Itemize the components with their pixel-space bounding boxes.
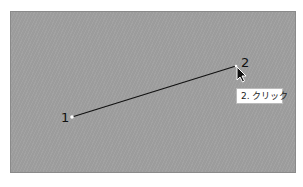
tooltip-text: 2. クリック — [241, 91, 288, 101]
click-tooltip: 2. クリック — [236, 88, 283, 104]
point-2-label: 2 — [241, 56, 249, 69]
point-1-marker — [70, 115, 74, 119]
point-1-label: 1 — [61, 111, 69, 124]
drawn-line — [72, 66, 236, 117]
